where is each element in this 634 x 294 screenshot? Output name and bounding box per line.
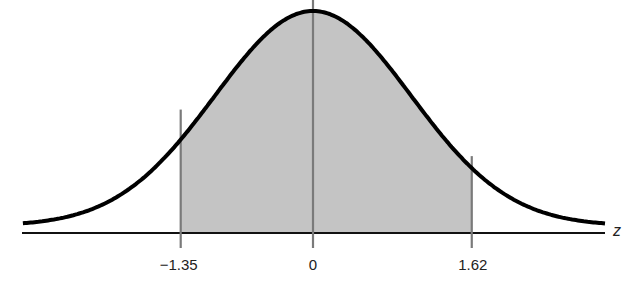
tick-label-right: 1.62 [458, 256, 487, 273]
shaded-area [181, 11, 472, 233]
normal-curve-chart [0, 0, 634, 294]
axis-variable-label: z [613, 222, 621, 240]
tick-label-left: −1.35 [160, 256, 198, 273]
tick-label-center: 0 [309, 256, 317, 273]
